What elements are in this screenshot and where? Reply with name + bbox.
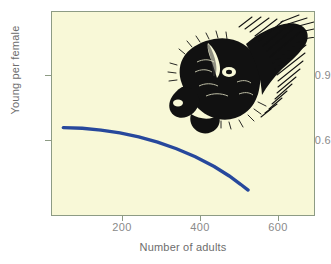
x-tick-label-600: 600 (256, 221, 300, 233)
plot-area (51, 11, 315, 216)
x-tick-label-200: 200 (100, 221, 144, 233)
bison-reproduction-chart: Young per female 0.9 0.6 200 400 600 Num… (0, 0, 331, 264)
y-axis-label: Young per female (9, 10, 29, 130)
x-tick-label-400: 400 (178, 221, 222, 233)
young-per-female-curve (52, 12, 315, 216)
curve-line (63, 128, 248, 190)
chart-type: line (0, 0, 1, 1)
x-axis-label: Number of adults (51, 241, 315, 253)
